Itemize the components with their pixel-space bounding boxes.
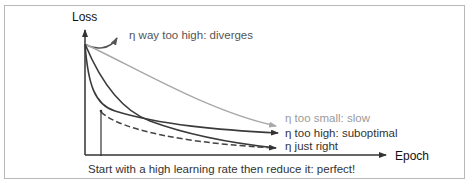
label-just-right: η just right <box>285 141 338 153</box>
label-diverges: η way too high: diverges <box>129 30 253 42</box>
label-too-high: η too high: suboptimal <box>285 128 398 140</box>
curve-just-right <box>85 44 276 148</box>
label-too-small: η too small: slow <box>285 113 370 125</box>
y-axis-label: Loss <box>72 11 97 23</box>
caption: Start with a high learning rate then red… <box>88 164 355 176</box>
curve-too-small <box>85 44 276 126</box>
curve-too-high <box>85 44 278 133</box>
curve-schedule-dashed <box>101 112 276 148</box>
x-axis-label: Epoch <box>395 150 429 162</box>
